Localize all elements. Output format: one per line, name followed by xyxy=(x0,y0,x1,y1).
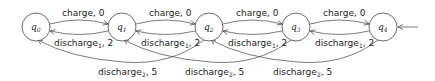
state-diagram: q0 q1 q2 q3 q4 charge, 0 charge, 0 charg… xyxy=(0,0,435,81)
svg-text:discharge2, 5: discharge2, 5 xyxy=(98,67,157,78)
svg-text:charge, 0: charge, 0 xyxy=(236,8,279,18)
state-q0: q0 xyxy=(22,13,50,41)
state-q3: q3 xyxy=(282,13,310,41)
svg-text:charge, 0: charge, 0 xyxy=(149,8,192,18)
svg-text:discharge1, 2: discharge1, 2 xyxy=(54,38,113,49)
svg-text:discharge2, 5: discharge2, 5 xyxy=(185,67,244,78)
discharge2-labels: discharge2, 5 discharge2, 5 discharge2, … xyxy=(98,67,332,78)
state-q4: q4 xyxy=(369,13,397,41)
svg-text:charge, 0: charge, 0 xyxy=(323,8,366,18)
svg-text:discharge2, 5: discharge2, 5 xyxy=(273,67,332,78)
state-q1: q1 xyxy=(108,13,136,41)
state-q2: q2 xyxy=(195,13,223,41)
svg-text:charge, 0: charge, 0 xyxy=(62,8,105,18)
svg-text:discharge1, 2: discharge1, 2 xyxy=(228,38,287,49)
svg-text:discharge1, 2: discharge1, 2 xyxy=(141,38,200,49)
svg-text:discharge1, 2: discharge1, 2 xyxy=(315,38,374,49)
